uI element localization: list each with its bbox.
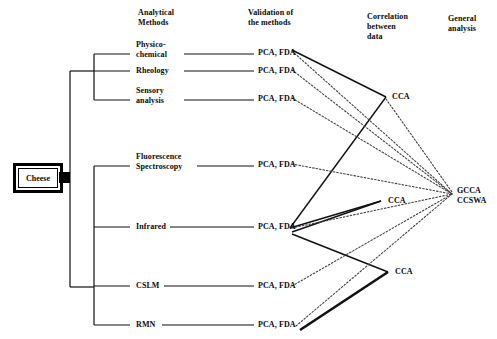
general-analysis-node[interactable]: GCCA CCSWA: [457, 186, 486, 206]
general-analysis-line: CCSWA: [457, 196, 486, 206]
validation-label-sensory-analysis[interactable]: PCA, FDA: [258, 94, 296, 104]
general-analysis-line: GCCA: [457, 186, 486, 196]
method-label-fluorescence-spectroscopy[interactable]: Fluorescence Spectroscopy: [136, 152, 182, 172]
column-header-line: data: [367, 32, 408, 42]
cca-bottom-link-infrared: [292, 234, 388, 272]
diagram-canvas: Analytical Methods Validation of the met…: [0, 0, 497, 339]
dotted-physico-to-gcca: [292, 51, 452, 194]
column-header-line: analysis: [448, 24, 476, 34]
cca-top-link-physico: [292, 50, 386, 97]
method-label-physico-chemical[interactable]: Physico- chemical: [136, 40, 167, 60]
tree-trunk-group: [70, 71, 94, 287]
method-label-line: RMN: [136, 320, 155, 330]
correlation-node-cca-bottom[interactable]: CCA: [395, 267, 413, 277]
root-node-cheese[interactable]: Cheese: [13, 163, 63, 193]
column-header-line: Methods: [138, 18, 174, 28]
method-label-line: Rheology: [136, 66, 169, 76]
validation-label-infrared[interactable]: PCA, FDA: [258, 222, 296, 232]
cca-bottom-link-rmn: [300, 272, 388, 330]
validation-label-rheology[interactable]: PCA, FDA: [258, 66, 296, 76]
dotted-rmn-to-gcca: [296, 194, 452, 326]
top-group-spine: [94, 54, 130, 100]
method-label-line: Fluorescence: [136, 152, 182, 162]
method-label-line: analysis: [136, 96, 164, 106]
column-header-validation-of-methods: Validation of the methods: [248, 8, 293, 28]
column-header-line: Analytical: [138, 8, 174, 18]
validation-label-physico-chemical[interactable]: PCA, FDA: [258, 48, 296, 58]
dotted-sensory-to-gcca: [292, 98, 452, 194]
method-label-line: chemical: [136, 50, 167, 60]
gcca-dotted-links: [292, 51, 452, 326]
method-label-line: CSLM: [136, 281, 160, 291]
method-to-validation-connectors: [162, 54, 254, 325]
validation-label-rmn[interactable]: PCA, FDA: [258, 320, 296, 330]
column-header-correlation-between-data: Correlation between data: [367, 12, 408, 42]
column-header-line: Correlation: [367, 12, 408, 22]
method-label-rheology[interactable]: Rheology: [136, 66, 169, 76]
cca-solid-links: [290, 50, 388, 330]
diagram-svg: [0, 0, 497, 339]
dotted-cca-top-to-gcca: [386, 99, 452, 192]
column-header-analytical-methods: Analytical Methods: [138, 8, 174, 28]
root-node-connector: [59, 172, 70, 183]
method-label-line: Physico-: [136, 40, 167, 50]
method-label-rmn[interactable]: RMN: [136, 320, 155, 330]
method-label-line: Spectroscopy: [136, 162, 182, 172]
method-label-line: Sensory: [136, 86, 164, 96]
column-header-line: between: [367, 22, 408, 32]
validation-label-fluorescence-spectroscopy[interactable]: PCA, FDA: [258, 160, 296, 170]
validation-label-cslm[interactable]: PCA, FDA: [258, 281, 296, 291]
method-label-infrared[interactable]: Infrared: [136, 222, 166, 232]
dotted-cslm-to-gcca: [292, 194, 452, 286]
bottom-group-spine: [94, 166, 130, 325]
correlation-node-cca-middle[interactable]: CCA: [388, 196, 406, 206]
dotted-infrared-to-gcca: [292, 194, 452, 228]
method-label-cslm[interactable]: CSLM: [136, 281, 160, 291]
correlation-node-cca-top[interactable]: CCA: [392, 92, 410, 102]
column-header-line: the methods: [248, 18, 293, 28]
column-header-general-analysis: General analysis: [448, 14, 476, 34]
root-node-cheese-label: Cheese: [18, 168, 58, 188]
column-header-line: General: [448, 14, 476, 24]
method-label-line: Infrared: [136, 222, 166, 232]
dotted-rheology-to-gcca: [292, 70, 452, 194]
column-header-line: Validation of: [248, 8, 293, 18]
cca-top-link-infrared: [290, 97, 386, 228]
method-label-sensory-analysis[interactable]: Sensory analysis: [136, 86, 164, 106]
cca-middle-link-upper: [292, 201, 381, 232]
